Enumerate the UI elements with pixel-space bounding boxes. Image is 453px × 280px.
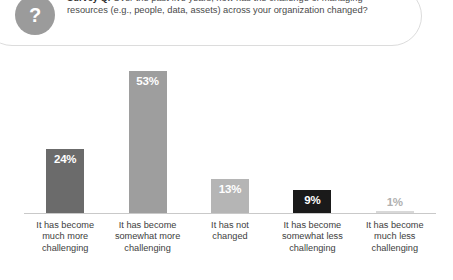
chart-category-label-line: It has become [106,220,188,231]
chart-category-label: It has becomesomewhat lesschallenging [271,220,353,254]
chart-category-label-line: It has become [271,220,353,231]
chart-category-label-line: changed [189,231,271,242]
chart-category-label-line: It has become [24,220,106,231]
chart-bar-slot: 9% [271,52,353,214]
chart-bar-value-label: 13% [219,184,241,214]
survey-question-body: Over the past five years, how has the ch… [67,0,368,15]
chart-category-label-line: somewhat more [106,231,188,242]
chart-category-label: It has becomemuch morechallenging [24,220,106,254]
chart-category-label-line: somewhat less [271,231,353,242]
chart-bar-value-label: 53% [136,76,158,214]
chart-category-label-line: challenging [24,243,106,254]
chart-bar-slot: 24% [24,52,106,214]
question-mark-glyph: ? [29,5,41,25]
chart-baseline-axis [24,213,436,214]
chart-bar-slot: 1% [354,52,436,214]
survey-question-lead: Survey Q. [67,0,110,3]
survey-question-text: Survey Q. Over the past five years, how … [67,0,397,16]
question-mark-icon: ? [15,0,55,35]
survey-question-card: ? Survey Q. Over the past five years, ho… [0,0,422,46]
chart-bar-value-label: 9% [304,195,320,214]
chart-category-label-line: challenging [354,243,436,254]
survey-bar-chart: 24%53%13%9%1% It has becomemuch morechal… [0,52,453,280]
chart-category-label-line: It has not [189,220,271,231]
chart-bar: 24% [46,149,84,214]
chart-category-label-line: much less [354,231,436,242]
chart-bar-value-label: 24% [54,154,76,214]
chart-plot-area: 24%53%13%9%1% [24,52,436,214]
chart-category-label-line: much more [24,231,106,242]
chart-bar-value-label: 1% [387,197,403,209]
chart-category-label: It has notchanged [189,220,271,243]
chart-bar-slot: 13% [189,52,271,214]
chart-category-label-line: challenging [271,243,353,254]
chart-bar: 13% [211,179,249,214]
chart-bar-slot: 53% [106,52,188,214]
chart-category-label-line: It has become [354,220,436,231]
chart-bar: 53% [129,71,167,214]
chart-bar: 9% [293,190,331,214]
chart-category-label-line: challenging [106,243,188,254]
chart-category-label: It has becomesomewhat morechallenging [106,220,188,254]
chart-category-label: It has becomemuch lesschallenging [354,220,436,254]
